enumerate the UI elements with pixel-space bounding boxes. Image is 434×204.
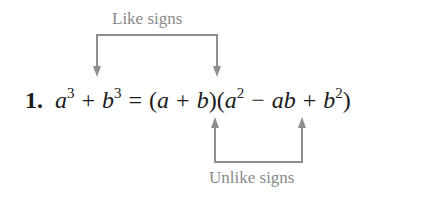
factor1-close: ): [209, 87, 217, 113]
lhs-term1-base: a: [55, 87, 67, 113]
like-signs-bracket-horizontal: [96, 34, 217, 36]
sum-of-cubes-equation: 1.a3+b3=(a+b)(a2−ab+b2): [25, 88, 351, 112]
like-signs-label: Like signs: [112, 10, 182, 27]
arrow-down-icon: [93, 66, 101, 77]
unlike-signs-bracket-right: [301, 127, 303, 162]
factor1-open: (: [149, 87, 157, 113]
factor2-t1-exp: 2: [237, 85, 245, 101]
factor2-t3-base: b: [323, 87, 335, 113]
unlike-signs-label: Unlike signs: [209, 169, 294, 186]
factor2-t2: ab: [272, 87, 296, 113]
like-signs-bracket-right: [216, 34, 218, 68]
factor2-t1-base: a: [225, 87, 237, 113]
factor1-b: b: [197, 87, 209, 113]
equation-number: 1.: [25, 87, 43, 113]
factor2-plus: +: [303, 87, 317, 113]
lhs-term2-base: b: [102, 87, 114, 113]
factor2-minus: −: [251, 87, 265, 113]
arrow-down-icon: [213, 66, 221, 77]
factor2-t3-exp: 2: [335, 85, 343, 101]
lhs-term1-exp: 3: [67, 85, 75, 101]
unlike-signs-bracket-horizontal: [214, 161, 303, 163]
equals-sign: =: [129, 87, 143, 113]
factor2-close: ): [343, 87, 351, 113]
like-signs-bracket-left: [96, 34, 98, 68]
factor1-plus: +: [176, 87, 190, 113]
lhs-plus: +: [82, 87, 96, 113]
lhs-term2-exp: 3: [114, 85, 122, 101]
factor1-a: a: [157, 87, 169, 113]
unlike-signs-bracket-left: [214, 127, 216, 162]
factor2-open: (: [217, 87, 225, 113]
